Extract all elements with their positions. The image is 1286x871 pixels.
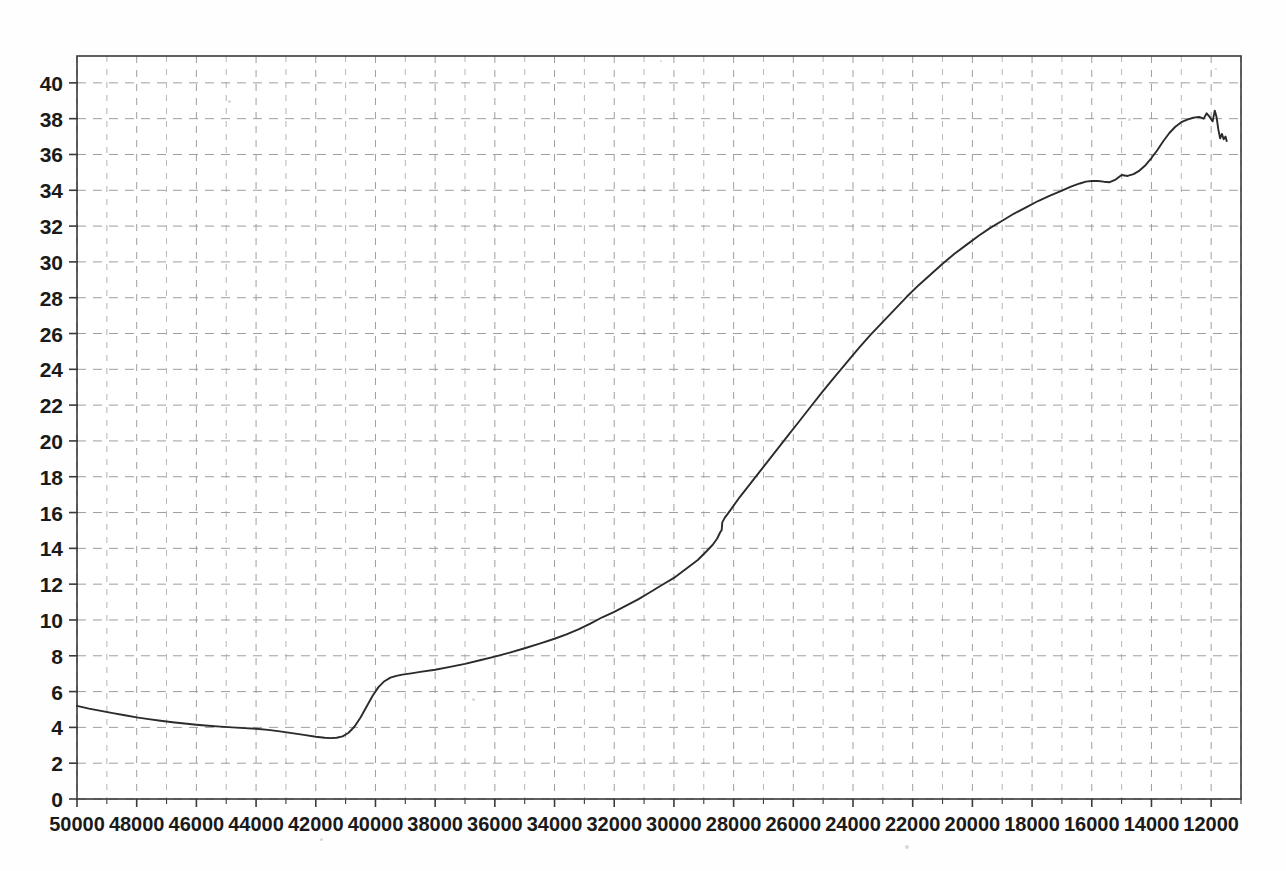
y-tick-label: 32 — [40, 215, 63, 238]
x-tick-label: 16000 — [1064, 813, 1120, 835]
x-tick-label: 12000 — [1183, 813, 1239, 835]
y-tick-label: 12 — [40, 573, 63, 596]
x-tick-label: 22000 — [885, 813, 941, 835]
x-tick-label: 50000 — [49, 813, 105, 835]
x-tick-label: 20000 — [945, 813, 1001, 835]
y-tick-label: 8 — [51, 645, 63, 668]
plot-background — [77, 56, 1241, 799]
y-tick-label: 26 — [40, 323, 63, 346]
x-tick-labels: 5000048000460004400042000400003800036000… — [49, 813, 1239, 835]
x-tick-label: 48000 — [109, 813, 165, 835]
x-tick-label: 44000 — [228, 813, 284, 835]
y-tick-label: 40 — [40, 72, 63, 95]
y-tick-label: 34 — [40, 179, 64, 202]
x-tick-label: 34000 — [527, 813, 583, 835]
y-tick-label: 2 — [51, 752, 63, 775]
x-tick-label: 28000 — [706, 813, 762, 835]
x-tick-label: 46000 — [169, 813, 225, 835]
x-tick-label: 18000 — [1004, 813, 1060, 835]
x-tick-label: 40000 — [348, 813, 404, 835]
y-tick-label: 10 — [40, 609, 63, 632]
y-tick-label: 6 — [51, 681, 63, 704]
x-tick-label: 24000 — [825, 813, 881, 835]
y-tick-label: 30 — [40, 251, 63, 274]
y-tick-label: 38 — [40, 108, 64, 131]
x-tick-label: 14000 — [1124, 813, 1180, 835]
y-tick-label: 20 — [40, 430, 63, 453]
x-tick-label: 38000 — [407, 813, 463, 835]
y-tick-labels: 0246810121416182022242628303234363840 — [40, 72, 64, 811]
x-tick-label: 32000 — [586, 813, 642, 835]
x-tick-label: 36000 — [467, 813, 523, 835]
y-tick-label: 22 — [40, 394, 63, 417]
y-tick-label: 16 — [40, 502, 63, 525]
x-tick-label: 42000 — [288, 813, 344, 835]
y-tick-label: 28 — [40, 287, 64, 310]
chart-figure: 0246810121416182022242628303234363840500… — [0, 0, 1286, 871]
x-tick-label: 26000 — [765, 813, 821, 835]
y-tick-label: 18 — [40, 466, 64, 489]
y-tick-label: 36 — [40, 143, 63, 166]
y-tick-label: 14 — [40, 537, 64, 560]
y-tick-label: 4 — [51, 716, 63, 739]
y-tick-label: 24 — [40, 358, 64, 381]
x-tick-label: 30000 — [646, 813, 702, 835]
y-tick-label: 0 — [51, 788, 63, 811]
line-chart: 0246810121416182022242628303234363840500… — [0, 0, 1286, 871]
